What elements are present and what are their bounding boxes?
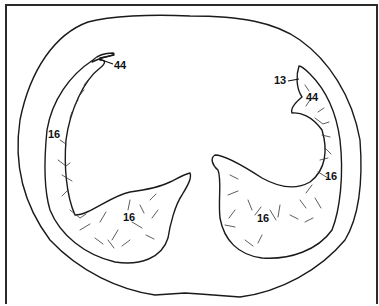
label-16-left-upper: 16 [48, 128, 60, 140]
label-16-left-lower: 16 [123, 211, 135, 223]
thoracic-wall-outline [18, 15, 361, 297]
left-lung-outline [45, 53, 190, 263]
right-lung-outline [212, 66, 341, 258]
label-16-right-upper: 16 [325, 170, 337, 182]
label-44-left: 44 [114, 59, 127, 71]
left-lung-vessels [58, 80, 158, 248]
chest-cross-section-diagram: 44 16 16 13 44 16 16 [0, 0, 379, 306]
label-16-right-lower: 16 [257, 212, 269, 224]
leader-44-left [99, 59, 113, 64]
figure-frame [6, 5, 377, 304]
label-13-right: 13 [274, 74, 286, 86]
label-44-right: 44 [306, 91, 319, 103]
